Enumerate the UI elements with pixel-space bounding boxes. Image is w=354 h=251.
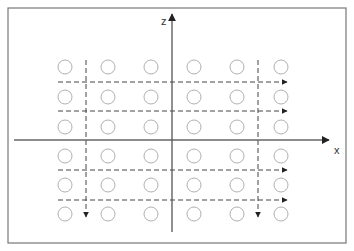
- grid-circle: [230, 178, 244, 192]
- grid-circle: [187, 149, 201, 163]
- grid-circle: [144, 120, 158, 134]
- grid-circle: [274, 178, 288, 192]
- x-axis-label: x: [334, 144, 340, 156]
- grid-circle: [144, 178, 158, 192]
- grid-circle: [274, 60, 288, 74]
- grid-circle: [274, 149, 288, 163]
- grid-circle: [58, 120, 72, 134]
- grid-circle: [230, 90, 244, 104]
- grid-circle: [144, 149, 158, 163]
- grid-circle: [230, 120, 244, 134]
- grid-circle: [187, 207, 201, 221]
- grid-circle: [101, 90, 115, 104]
- grid-circle: [230, 60, 244, 74]
- grid-circle: [58, 149, 72, 163]
- grid-circle: [274, 90, 288, 104]
- grid-circle: [101, 120, 115, 134]
- grid-circle: [144, 90, 158, 104]
- grid-circle: [58, 90, 72, 104]
- grid-circle: [58, 178, 72, 192]
- grid-circle: [274, 120, 288, 134]
- diagram-frame: [8, 8, 346, 243]
- grid-circle: [274, 207, 288, 221]
- grid-circle: [144, 207, 158, 221]
- grid-circle: [101, 149, 115, 163]
- grid-circle: [187, 90, 201, 104]
- grid-circle: [187, 120, 201, 134]
- grid-circle: [101, 60, 115, 74]
- grid-circle: [58, 207, 72, 221]
- grid-circle: [230, 207, 244, 221]
- grid-circle: [144, 60, 158, 74]
- grid-circle: [230, 149, 244, 163]
- grid-circle: [101, 178, 115, 192]
- grid-circle: [58, 60, 72, 74]
- grid-circle: [187, 60, 201, 74]
- scan-pattern-diagram: x z: [0, 0, 354, 251]
- grid-circle: [101, 207, 115, 221]
- z-axis-label: z: [161, 15, 167, 27]
- grid-circle: [187, 178, 201, 192]
